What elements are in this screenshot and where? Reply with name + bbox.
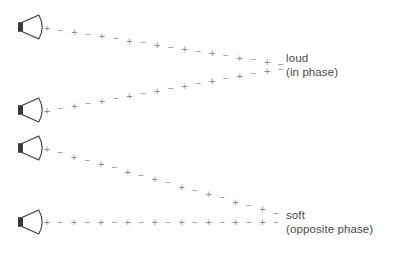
wave-plus-mark: + xyxy=(154,39,160,51)
wave-minus-mark: − xyxy=(138,170,144,181)
wave-plus-mark: + xyxy=(71,100,77,112)
speaker-cone xyxy=(22,210,42,234)
wave-minus-mark: − xyxy=(140,37,146,48)
wave-plus-mark: + xyxy=(44,105,50,117)
wave-plus-mark: + xyxy=(259,216,265,228)
speaker-cone xyxy=(22,98,42,122)
wave-plus-mark: + xyxy=(209,75,215,87)
wave-plus-mark: + xyxy=(99,95,105,107)
wave-plus-mark: + xyxy=(71,26,77,38)
speaker-top xyxy=(18,15,42,39)
speaker-cone xyxy=(22,136,42,160)
label-soft: soft (opposite phase) xyxy=(286,208,373,236)
wave-minus-mark: − xyxy=(192,217,198,228)
wave-minus-mark: − xyxy=(140,88,146,99)
label-soft-title: soft xyxy=(286,208,373,222)
wave-minus-mark: − xyxy=(111,162,117,173)
wave-minus-mark: − xyxy=(251,68,257,79)
wave-plus-mark: + xyxy=(232,196,238,208)
wave-minus-mark: − xyxy=(58,217,64,228)
wave-plus-mark: + xyxy=(181,80,187,92)
wave-minus-mark: − xyxy=(223,73,229,84)
label-loud-title: loud xyxy=(286,51,338,65)
wave-plus-mark: + xyxy=(181,43,187,55)
wave-plus-mark: + xyxy=(126,35,132,47)
wave-plus-mark: + xyxy=(236,52,242,64)
wave-minus-mark: − xyxy=(192,185,198,196)
wave-plus-mark: + xyxy=(44,216,50,228)
label-loud: loud (in phase) xyxy=(286,51,338,79)
label-soft-subtitle: (opposite phase) xyxy=(286,222,373,236)
speaker-back-plate xyxy=(18,22,22,32)
speaker-back-plate xyxy=(18,143,22,153)
wave-minus-mark: − xyxy=(195,78,201,89)
wave-plus-mark: + xyxy=(264,65,270,77)
wave-from-top-speaker: +−+−+−+−+−+−+−+−+− xyxy=(44,22,284,70)
wave-plus-mark: + xyxy=(98,158,104,170)
wave-minus-mark: − xyxy=(165,217,171,228)
wave-minus-mark: − xyxy=(219,217,225,228)
wave-minus-mark: − xyxy=(165,177,171,188)
wave-plus-mark: + xyxy=(178,181,184,193)
wave-minus-mark: − xyxy=(111,217,117,228)
wave-layer: +−+−+−+−+−+−+−+−+−+−+−+−+−+−+−+−+−+−+−+−… xyxy=(44,22,284,228)
speaker-layer xyxy=(18,15,42,234)
wave-minus-mark: − xyxy=(278,64,284,75)
wave-minus-mark: − xyxy=(85,98,91,109)
wave-plus-mark: + xyxy=(259,203,265,215)
speaker-lower-middle xyxy=(18,136,42,160)
wave-plus-mark: + xyxy=(154,85,160,97)
wave-plus-mark: + xyxy=(99,30,105,42)
wave-plus-mark: + xyxy=(125,216,131,228)
wave-plus-mark: + xyxy=(125,166,131,178)
wave-minus-mark: − xyxy=(223,50,229,61)
wave-minus-mark: − xyxy=(195,46,201,57)
wave-minus-mark: − xyxy=(168,83,174,94)
wave-minus-mark: − xyxy=(168,42,174,53)
wave-minus-mark: − xyxy=(273,217,279,228)
speaker-cone xyxy=(22,15,42,39)
wave-plus-mark: + xyxy=(98,216,104,228)
wave-plus-mark: + xyxy=(205,188,211,200)
speaker-bottom xyxy=(18,210,42,234)
wave-minus-mark: − xyxy=(138,217,144,228)
wave-minus-mark: − xyxy=(85,29,91,40)
wave-plus-mark: + xyxy=(44,143,50,155)
wave-plus-mark: + xyxy=(152,173,158,185)
speaker-upper-middle xyxy=(18,98,42,122)
wave-minus-mark: − xyxy=(246,200,252,211)
wave-plus-mark: + xyxy=(205,216,211,228)
wave-minus-mark: − xyxy=(113,33,119,44)
wave-minus-mark: − xyxy=(251,54,257,65)
speaker-back-plate xyxy=(18,217,22,227)
wave-plus-mark: + xyxy=(236,70,242,82)
wave-plus-mark: + xyxy=(178,216,184,228)
wave-minus-mark: − xyxy=(58,25,64,36)
wave-from-lower-middle-speaker: +−+−+−+−+−+−+−+−+− xyxy=(44,143,279,219)
sound-interference-diagram: +−+−+−+−+−+−+−+−+−+−+−+−+−+−+−+−+−+−+−+−… xyxy=(0,0,396,258)
wave-from-bottom-speaker: +−+−+−+−+−+−+−+−+− xyxy=(44,216,279,228)
wave-plus-mark: + xyxy=(71,216,77,228)
label-loud-subtitle: (in phase) xyxy=(286,65,338,79)
wave-plus-mark: + xyxy=(71,151,77,163)
wave-minus-mark: − xyxy=(58,103,64,114)
wave-plus-mark: + xyxy=(44,22,50,34)
wave-plus-mark: + xyxy=(232,216,238,228)
wave-minus-mark: − xyxy=(84,155,90,166)
wave-plus-mark: + xyxy=(152,216,158,228)
wave-plus-mark: + xyxy=(126,90,132,102)
wave-plus-mark: + xyxy=(209,47,215,59)
wave-minus-mark: − xyxy=(219,192,225,203)
wave-minus-mark: − xyxy=(113,93,119,104)
wave-minus-mark: − xyxy=(58,147,64,158)
wave-minus-mark: − xyxy=(84,217,90,228)
wave-minus-mark: − xyxy=(246,217,252,228)
wave-from-upper-middle-speaker: +−+−+−+−+−+−+−+−+− xyxy=(44,64,284,118)
speaker-back-plate xyxy=(18,105,22,115)
